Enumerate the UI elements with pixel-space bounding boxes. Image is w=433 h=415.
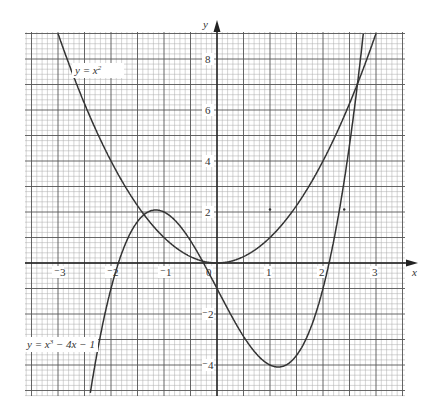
curve-label-cubic-text: y = x [26, 338, 50, 350]
y-tick-label: 8 [205, 53, 211, 65]
x-tick-label: 2 [319, 266, 325, 278]
point-mark [269, 208, 271, 210]
curve-label-parabola-exponent: 2 [98, 64, 102, 72]
graph-plot: x y ⁻3⁻2⁻101238642⁻2⁻4 y = x2 y = x3 − 4… [0, 0, 433, 415]
x-axis-label: x [411, 266, 417, 278]
curve-y-equals-cubic [90, 34, 363, 393]
y-tick-label: ⁻2 [202, 308, 214, 320]
x-tick-label: ⁻1 [160, 266, 172, 278]
y-tick-label: 2 [205, 206, 211, 218]
x-tick-label: 1 [266, 266, 272, 278]
curve-label-parabola: y = x2 [72, 63, 124, 78]
y-tick-label: 6 [205, 104, 211, 116]
y-tick-label: 4 [205, 155, 211, 167]
y-axis-label: y [202, 18, 208, 30]
curve-label-parabola-text: y = x [74, 64, 98, 76]
curve-label-cubic-suffix: − 4x − 1 [53, 338, 95, 350]
x-tick-label: 3 [372, 266, 378, 278]
curve-label-cubic: y = x3 − 4x − 1 [25, 337, 98, 352]
svg-text:y = x2: y = x2 [74, 64, 102, 76]
svg-text:y = x3 − 4x − 1: y = x3 − 4x − 1 [26, 338, 95, 350]
y-axis-arrow-icon [214, 20, 221, 32]
x-tick-label: ⁻3 [54, 266, 66, 278]
point-mark [343, 208, 345, 210]
y-tick-label: ⁻4 [202, 359, 214, 371]
